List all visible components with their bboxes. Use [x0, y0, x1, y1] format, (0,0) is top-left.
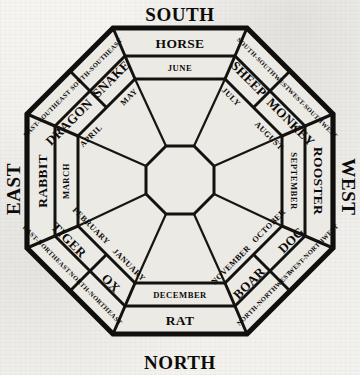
sector-animal-rat: RAT [166, 313, 194, 328]
cardinal-label-north: NORTH [144, 352, 216, 373]
sector-month-june: JUNE [168, 63, 192, 73]
cardinal-label-east: EAST [3, 163, 24, 215]
sector-month-march: MARCH [61, 163, 71, 199]
sector-month-december: DECEMBER [153, 290, 207, 300]
cardinal-label-south: SOUTH [145, 4, 215, 25]
compass-octagon-diagram: SOUTH EAST WEST NORTH EAST-SOUTHEAST SOU… [0, 0, 360, 375]
sector-animal-rooster: ROOSTER [311, 147, 326, 215]
sector-month-september: SEPTEMBER [289, 152, 299, 210]
sector-animal-rabbit: RABBIT [35, 154, 50, 208]
cardinal-label-west: WEST [338, 158, 359, 215]
sector-animal-horse: HORSE [156, 36, 205, 51]
zodiac-compass-page: SOUTH EAST WEST NORTH EAST-SOUTHEAST SOU… [0, 0, 360, 375]
